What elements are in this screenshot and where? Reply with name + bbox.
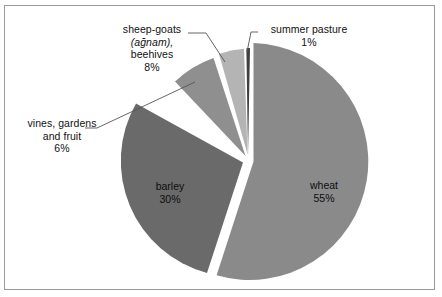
slice-label-barley-percent: 30%: [140, 193, 200, 206]
callout-vines-line2: and fruit: [8, 130, 116, 143]
slice-label-wheat-percent: 55%: [292, 192, 356, 205]
callout-sheep-goats-line3: beehives: [96, 48, 208, 61]
callout-sheep-goats-percent: 8%: [96, 61, 208, 74]
callout-summer-pasture-line1: summer pasture: [247, 23, 371, 36]
callout-sheep-goats: sheep-goats (ağnam), beehives 8%: [96, 23, 208, 73]
callout-sheep-goats-line2: (ağnam),: [96, 36, 208, 49]
slice-label-wheat-name: wheat: [292, 179, 356, 192]
pie-slices: [121, 43, 368, 280]
callout-sheep-goats-line1: sheep-goats: [96, 23, 208, 36]
slice-label-barley: barley 30%: [140, 180, 200, 205]
callout-summer-pasture-percent: 1%: [247, 36, 371, 49]
slice-label-wheat: wheat 55%: [292, 179, 356, 204]
slice-label-barley-name: barley: [140, 180, 200, 193]
callout-vines-line1: vines, gardens: [8, 117, 116, 130]
callout-vines: vines, gardens and fruit 6%: [8, 117, 116, 155]
callout-vines-percent: 6%: [8, 142, 116, 155]
callout-summer-pasture: summer pasture 1%: [247, 23, 371, 48]
